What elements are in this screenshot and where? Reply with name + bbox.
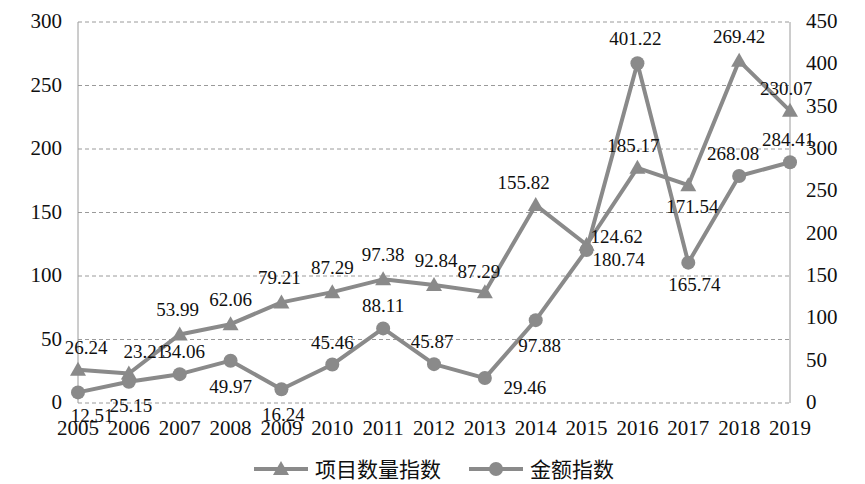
x-axis-tick: 2019 — [756, 418, 824, 439]
data-point-label: 16.24 — [262, 405, 305, 424]
data-point-marker — [629, 160, 645, 174]
legend-circle-icon — [467, 458, 525, 480]
data-point-label: 62.06 — [209, 290, 252, 309]
y-axis-left-tick: 50 — [0, 329, 62, 350]
y-axis-right-tick: 250 — [806, 180, 864, 201]
data-point-label: 26.24 — [65, 338, 108, 357]
data-point-marker — [681, 256, 695, 270]
data-point-marker — [325, 358, 339, 372]
data-point-marker — [528, 197, 544, 211]
y-axis-right-tick: 200 — [806, 223, 864, 244]
data-point-marker — [71, 385, 85, 399]
y-axis-right-tick: 450 — [806, 11, 864, 32]
data-point-marker — [731, 53, 747, 67]
data-point-label: 165.74 — [668, 275, 720, 294]
data-point-label: 34.06 — [162, 342, 205, 361]
y-axis-right-tick: 100 — [806, 307, 864, 328]
series-line-1 — [78, 61, 790, 374]
data-point-label: 88.11 — [362, 296, 404, 315]
data-point-label: 180.74 — [592, 250, 644, 269]
y-axis-left-tick: 200 — [0, 138, 62, 159]
data-point-marker — [529, 313, 543, 327]
y-axis-right-tick: 150 — [806, 265, 864, 286]
data-point-marker — [224, 354, 238, 368]
legend-item-2[interactable]: 金额指数 — [467, 458, 614, 480]
data-point-label: 45.87 — [411, 332, 454, 351]
data-point-label: 185.17 — [607, 136, 659, 155]
chart-legend: 项目数量指数金额指数 — [0, 458, 865, 480]
data-point-label: 155.82 — [498, 173, 550, 192]
data-point-label: 268.08 — [707, 144, 759, 163]
y-axis-right-tick: 300 — [806, 138, 864, 159]
data-point-label: 79.21 — [258, 268, 301, 287]
data-point-marker — [427, 357, 441, 371]
y-axis-right-tick: 50 — [806, 350, 864, 371]
data-point-label: 12.51 — [71, 406, 114, 425]
data-point-marker — [173, 367, 187, 381]
data-point-label: 23.21 — [123, 342, 166, 361]
y-axis-left-tick: 250 — [0, 75, 62, 96]
data-point-marker — [122, 375, 136, 389]
data-point-marker — [732, 169, 746, 183]
data-point-label: 284.41 — [762, 130, 814, 149]
legend-label: 金额指数 — [530, 459, 614, 480]
data-point-label: 53.99 — [156, 300, 199, 319]
y-axis-right-tick: 350 — [806, 96, 864, 117]
data-point-label: 25.15 — [109, 396, 152, 415]
legend-triangle-icon — [252, 458, 310, 480]
data-point-label: 269.42 — [713, 27, 765, 46]
chart-root: 050100150200250300 050100150200250300350… — [0, 0, 865, 484]
data-point-label: 171.54 — [666, 197, 718, 216]
y-axis-left-tick: 150 — [0, 202, 62, 223]
legend-item-1[interactable]: 项目数量指数 — [252, 458, 441, 480]
y-axis-left-tick: 300 — [0, 11, 62, 32]
data-point-label: 124.62 — [590, 227, 642, 246]
y-axis-left-tick: 100 — [0, 265, 62, 286]
data-point-label: 49.97 — [209, 377, 252, 396]
data-point-marker — [630, 56, 644, 70]
y-axis-right-tick: 400 — [806, 53, 864, 74]
data-point-marker — [274, 382, 288, 396]
data-point-label: 230.07 — [760, 79, 812, 98]
data-point-label: 45.46 — [311, 333, 354, 352]
data-point-label: 97.88 — [518, 336, 561, 355]
data-point-marker — [376, 321, 390, 335]
data-point-label: 87.29 — [311, 258, 354, 277]
data-point-label: 92.84 — [415, 251, 458, 270]
data-point-label: 401.22 — [609, 29, 661, 48]
legend-label: 项目数量指数 — [315, 459, 441, 480]
data-point-marker — [478, 371, 492, 385]
data-point-label: 29.46 — [503, 378, 546, 397]
data-point-marker — [783, 155, 797, 169]
data-point-label: 97.38 — [362, 245, 405, 264]
y-axis-right-tick: 0 — [806, 392, 864, 413]
data-point-label: 87.29 — [457, 262, 500, 281]
y-axis-left-tick: 0 — [0, 392, 62, 413]
